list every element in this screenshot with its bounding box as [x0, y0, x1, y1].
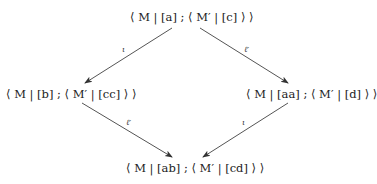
- node-bottom: ⟨ M | [ab] ; ⟨ M′ | [cd] ⟩ ⟩: [126, 161, 264, 175]
- edge-label-left-bottom: ℓ′: [126, 118, 131, 128]
- node-top-text: ⟨ M | [a] ; ⟨ M′ | [c] ⟩ ⟩: [130, 10, 254, 24]
- node-left-text: ⟨ M | [b] ; ⟨ M′ | [cc] ⟩ ⟩: [6, 87, 136, 101]
- arrow-left-to-bottom: [82, 103, 172, 157]
- edge-label-top-left: ι: [122, 45, 125, 55]
- node-top: ⟨ M | [a] ; ⟨ M′ | [c] ⟩ ⟩: [130, 10, 254, 24]
- arrow-top-to-left: [85, 28, 172, 83]
- node-right: ⟨ M | [aa] ; ⟨ M′ | [d] ⟩ ⟩: [246, 87, 377, 101]
- arrow-top-to-right: [200, 28, 288, 83]
- edge-label-right-bottom: ι: [242, 118, 245, 128]
- node-right-text: ⟨ M | [aa] ; ⟨ M′ | [d] ⟩ ⟩: [246, 87, 377, 101]
- edge-label-top-right: ℓ′: [244, 45, 249, 55]
- arrow-right-to-bottom: [203, 103, 288, 157]
- node-left: ⟨ M | [b] ; ⟨ M′ | [cc] ⟩ ⟩: [6, 87, 136, 101]
- node-bottom-text: ⟨ M | [ab] ; ⟨ M′ | [cd] ⟩ ⟩: [126, 161, 264, 175]
